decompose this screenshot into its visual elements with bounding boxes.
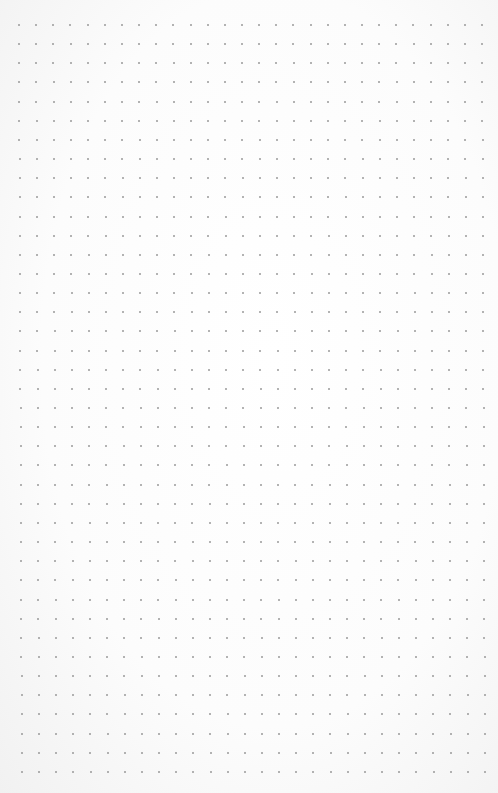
grid-dot — [448, 235, 450, 237]
grid-dot — [397, 350, 399, 352]
grid-dot — [244, 694, 246, 696]
grid-dot — [361, 24, 363, 26]
grid-dot — [157, 541, 159, 543]
grid-dot — [465, 388, 467, 390]
grid-dot — [484, 713, 486, 715]
grid-dot — [294, 426, 296, 428]
grid-dot — [413, 43, 415, 45]
grid-dot — [481, 101, 483, 103]
grid-dot — [139, 292, 141, 294]
grid-dot — [244, 713, 246, 715]
grid-dot — [155, 24, 157, 26]
grid-dot — [311, 369, 313, 371]
grid-dot — [37, 522, 39, 524]
grid-dot — [123, 503, 125, 505]
grid-dot — [327, 120, 329, 122]
grid-dot — [123, 522, 125, 524]
grid-dot — [241, 101, 243, 103]
grid-dot — [431, 426, 433, 428]
grid-dot — [207, 24, 209, 26]
grid-dot — [207, 120, 209, 122]
grid-dot — [35, 62, 37, 64]
grid-dot — [18, 24, 20, 26]
grid-dot — [450, 733, 452, 735]
grid-dot — [106, 522, 108, 524]
grid-dot — [174, 464, 176, 466]
grid-dot — [35, 43, 37, 45]
grid-dot — [329, 675, 331, 677]
grid-dot — [277, 484, 279, 486]
grid-dot — [124, 752, 126, 754]
grid-dot — [225, 216, 227, 218]
grid-dot — [311, 273, 313, 275]
grid-dot — [207, 62, 209, 64]
grid-dot — [277, 369, 279, 371]
grid-dot — [54, 522, 56, 524]
grid-dot — [450, 752, 452, 754]
grid-dot — [226, 560, 228, 562]
grid-dot — [190, 43, 192, 45]
grid-dot — [362, 158, 364, 160]
grid-dot — [72, 637, 74, 639]
grid-dot — [483, 484, 485, 486]
grid-dot — [484, 675, 486, 677]
grid-dot — [344, 177, 346, 179]
grid-dot — [278, 713, 280, 715]
grid-dot — [379, 177, 381, 179]
grid-dot — [244, 733, 246, 735]
grid-dot — [192, 752, 194, 754]
grid-dot — [209, 694, 211, 696]
grid-dot — [347, 752, 349, 754]
grid-dot — [20, 599, 22, 601]
grid-dot — [260, 522, 262, 524]
grid-dot — [207, 158, 209, 160]
grid-dot — [396, 196, 398, 198]
grid-dot — [173, 235, 175, 237]
grid-dot — [20, 503, 22, 505]
grid-dot — [381, 675, 383, 677]
grid-dot — [139, 388, 141, 390]
grid-dot — [207, 81, 209, 83]
grid-dot — [209, 713, 211, 715]
grid-dot — [396, 158, 398, 160]
grid-dot — [156, 254, 158, 256]
grid-dot — [106, 618, 108, 620]
grid-dot — [191, 369, 193, 371]
grid-dot — [260, 560, 262, 562]
grid-dot — [53, 311, 55, 313]
grid-dot — [36, 311, 38, 313]
grid-dot — [329, 618, 331, 620]
grid-dot — [224, 43, 226, 45]
grid-dot — [450, 771, 452, 773]
grid-dot — [123, 637, 125, 639]
grid-dot — [243, 464, 245, 466]
grid-dot — [483, 599, 485, 601]
grid-dot — [123, 579, 125, 581]
grid-dot — [396, 235, 398, 237]
grid-dot — [396, 101, 398, 103]
grid-dot — [174, 560, 176, 562]
grid-dot — [105, 254, 107, 256]
grid-dot — [345, 369, 347, 371]
grid-dot — [312, 694, 314, 696]
grid-dot — [295, 771, 297, 773]
grid-dot — [277, 350, 279, 352]
grid-dot — [225, 369, 227, 371]
grid-dot — [19, 330, 21, 332]
grid-dot — [312, 599, 314, 601]
grid-dot — [398, 637, 400, 639]
grid-dot — [192, 675, 194, 677]
grid-dot — [276, 120, 278, 122]
grid-dot — [378, 62, 380, 64]
grid-dot — [209, 675, 211, 677]
grid-dot — [209, 733, 211, 735]
grid-dot — [295, 579, 297, 581]
grid-dot — [328, 388, 330, 390]
grid-dot — [18, 81, 20, 83]
grid-dot — [158, 733, 160, 735]
grid-dot — [447, 139, 449, 141]
grid-dot — [311, 445, 313, 447]
grid-dot — [379, 254, 381, 256]
grid-dot — [37, 541, 39, 543]
grid-dot — [482, 369, 484, 371]
